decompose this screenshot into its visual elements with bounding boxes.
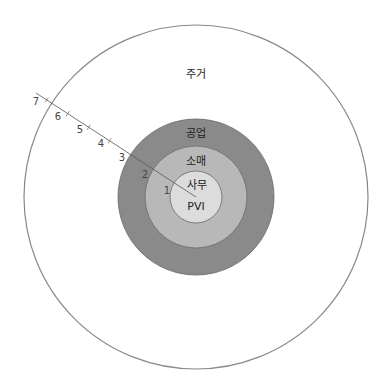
distance-label-4: 4 [98, 138, 104, 149]
distance-label-3: 3 [119, 152, 125, 163]
distance-label-1: 1 [164, 185, 170, 196]
zone-label-pvi: PVI [187, 200, 204, 213]
zone-label-retail: 소매 [186, 155, 206, 168]
zone-label-office: 사무 [187, 179, 207, 192]
tick-mark-7 [45, 97, 48, 102]
distance-label-5: 5 [77, 124, 83, 135]
zone-label-industrial: 공업 [186, 127, 206, 140]
distance-label-6: 6 [55, 111, 61, 122]
distance-label-7: 7 [33, 96, 39, 107]
zone-label-residential: 주거 [186, 68, 206, 81]
concentric-land-use-diagram: 주거공업소매사무PVI 1234567 [0, 0, 383, 390]
distance-label-2: 2 [142, 169, 148, 180]
